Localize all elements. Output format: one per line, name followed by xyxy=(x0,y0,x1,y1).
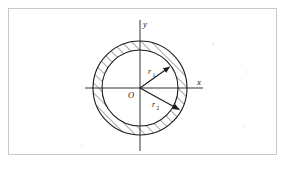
figure-root: y x O r 1 r 2 xyxy=(0,0,294,169)
origin-label: O xyxy=(128,90,134,100)
annulus-diagram: y x O r 1 r 2 xyxy=(0,0,294,169)
scan-artifact xyxy=(81,145,83,147)
scan-artifact xyxy=(243,125,245,127)
scan-artifact xyxy=(212,42,214,45)
y-axis-label: y xyxy=(142,19,147,29)
svg-text:2: 2 xyxy=(157,105,160,111)
x-axis-label: x xyxy=(196,77,201,87)
scan-artifact xyxy=(246,71,248,73)
svg-text:1: 1 xyxy=(153,72,156,78)
